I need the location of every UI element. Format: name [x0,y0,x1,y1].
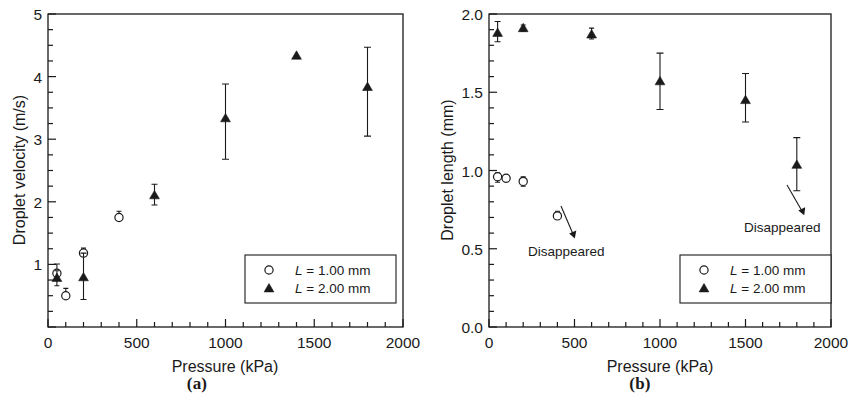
data-point [115,211,123,221]
y-minor-ticks-a [48,30,53,312]
y-axis-title-b: Droplet length (mm) [439,99,456,240]
marker-filled-triangle [150,190,160,198]
panel-a: Droplet velocity (m/s) 5 4 3 2 1 [0,0,428,405]
data-point [79,253,89,299]
x-tick-label-a-2: 1000 [208,334,243,351]
x-tick-label-a-3: 1500 [297,334,332,351]
y-tick-label-b-0: 0.0 [461,319,483,336]
y-tick-label-b-1: 0.5 [461,241,483,258]
series-b-L1-00 [494,173,562,220]
x-axis-title-b: Pressure (kPa) [607,358,714,375]
marker-filled-triangle [655,76,665,84]
marker-open-circle [115,213,123,221]
data-point [741,74,751,123]
series-a-L1-00 [53,211,123,300]
legend-label-b-2: L = 2.00 mm [730,281,805,296]
data-point [221,84,231,159]
data-point [587,28,597,39]
panel-caption-a: (a) [10,374,384,394]
legend-label-b-1: L = 1.00 mm [730,263,805,278]
y-tick-label-a-1: 1 [33,256,42,273]
marker-filled-triangle [518,23,528,31]
marker-filled-triangle [221,113,231,121]
legend-marker-open-circle-a [265,266,273,274]
data-point [502,174,510,182]
marker-open-circle [502,174,510,182]
data-point [494,173,502,183]
marker-open-circle [494,173,502,181]
data-point [493,22,503,42]
legend-b: L = 1.00 mm L = 2.00 mm [680,255,831,303]
x-tick-label-b-4: 2000 [814,334,849,351]
legend-label-a-2: L = 2.00 mm [295,281,370,296]
chart-a: Droplet velocity (m/s) 5 4 3 2 1 [0,0,428,405]
x-tick-label-b-1: 500 [562,334,588,351]
y-tick-label-b-3: 1.5 [461,84,483,101]
marker-filled-triangle [493,28,503,36]
y-tick-label-a-4: 4 [33,69,42,86]
marker-open-circle [62,292,70,300]
marker-open-circle [519,177,527,185]
annotation-label-2: Disappeared [744,220,821,235]
panel-b: Droplet length (mm) 2.0 1.5 1.0 0.5 0.0 [428,0,856,405]
chart-b: Droplet length (mm) 2.0 1.5 1.0 0.5 0.0 [428,0,856,405]
x-tick-label-b-2: 1000 [643,334,678,351]
legend-label-a-1: L = 1.00 mm [295,263,370,278]
legend-marker-open-circle-b [700,266,708,274]
figure-container: Droplet velocity (m/s) 5 4 3 2 1 [0,0,856,405]
panel-caption-b: (b) [450,374,830,394]
data-point [553,211,561,220]
marker-filled-triangle [79,272,89,280]
legend-a: L = 1.00 mm L = 2.00 mm [245,255,396,303]
data-point [519,177,527,186]
x-tick-label-a-1: 500 [124,334,150,351]
data-point [150,184,160,205]
data-point [655,53,665,109]
series-b-L2-00 [493,22,802,191]
data-point [292,51,302,59]
x-tick-label-a-0: 0 [44,334,53,351]
marker-filled-triangle [292,51,302,59]
y-tick-label-b-2: 1.0 [461,163,483,180]
data-point [62,288,70,299]
annotation-disappeared-1: Disappeared [528,206,605,259]
annotation-disappeared-2: Disappeared [744,185,821,235]
y-tick-label-a-3: 3 [33,131,42,148]
marker-filled-triangle [792,160,802,168]
data-point [792,138,802,191]
data-point [518,23,528,31]
y-tick-label-a-2: 2 [33,194,42,211]
marker-open-circle [553,212,561,220]
annotation-label-1: Disappeared [528,244,605,259]
marker-filled-triangle [741,95,751,103]
marker-filled-triangle [587,30,597,38]
y-axis-title-a: Droplet velocity (m/s) [11,95,28,245]
marker-filled-triangle [363,82,373,90]
x-tick-label-b-3: 1500 [728,334,763,351]
x-tick-label-a-4: 2000 [386,334,421,351]
x-tick-label-b-0: 0 [485,334,494,351]
x-axis-title-a: Pressure (kPa) [172,358,279,375]
y-tick-label-b-4: 2.0 [461,6,483,23]
data-point [363,47,373,136]
y-tick-label-a-5: 5 [33,6,42,23]
